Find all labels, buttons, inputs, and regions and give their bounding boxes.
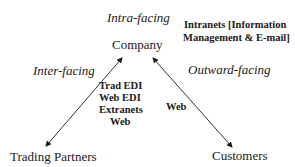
node-customers: Customers [212,148,268,164]
tech-web-edi: Web EDI [99,92,141,105]
tech-trad-edi: Trad EDI [99,80,142,93]
intranets-label-line1: Intranets [Information [184,19,286,32]
intranets-label-line2: Management & E-mail] [183,32,290,45]
outward-facing-label: Outward-facing [188,62,271,78]
intra-facing-label: Intra-facing [107,10,170,26]
tech-web-inter: Web [110,116,130,129]
tech-extranets: Extranets [99,104,143,117]
inter-facing-label: Inter-facing [33,63,95,79]
node-trading-partners: Trading Partners [10,149,97,165]
node-company: Company [112,37,163,53]
tech-web-outward: Web [166,101,186,114]
